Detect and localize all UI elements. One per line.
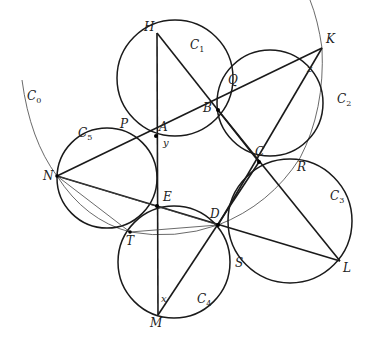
circle-c5 <box>57 128 157 228</box>
point-a <box>154 134 158 138</box>
point-e <box>155 204 159 208</box>
line-h-m <box>157 33 158 315</box>
label-c5: C5 <box>78 126 92 142</box>
label-r: R <box>296 160 306 174</box>
circle-c0-arc <box>22 0 322 235</box>
label-q: Q <box>228 73 238 87</box>
point-b <box>216 108 220 112</box>
label-h: H <box>143 20 155 34</box>
label-c2: C2 <box>337 92 351 108</box>
label-e: E <box>162 190 172 204</box>
line-b-l <box>218 110 340 261</box>
label-m: M <box>149 316 163 330</box>
label-c3: C3 <box>330 189 344 205</box>
label-p: P <box>119 117 129 131</box>
label-d: D <box>209 207 220 221</box>
label-n: N <box>42 169 54 183</box>
label-t: T <box>126 234 135 248</box>
angle-label-y: y <box>162 137 169 148</box>
point-c <box>257 160 261 164</box>
point-n <box>55 174 59 178</box>
line-m-c <box>158 162 259 315</box>
line-n-k <box>57 48 322 176</box>
label-a: A <box>158 120 168 134</box>
label-b: B <box>202 101 212 115</box>
line-t-d <box>130 225 218 232</box>
label-c0: C0 <box>27 89 41 105</box>
geometry-diagram: H A B C D E K L M N P Q R S T x y z C0 C… <box>0 0 371 343</box>
label-s: S <box>235 256 243 270</box>
angle-label-z: z <box>306 63 313 74</box>
label-k: K <box>325 32 336 46</box>
line-n-t <box>57 176 130 232</box>
label-l: L <box>342 261 351 275</box>
label-c4: C4 <box>197 292 211 308</box>
label-c: C <box>255 145 264 159</box>
angle-label-x: x <box>161 293 167 304</box>
point-d <box>216 223 220 227</box>
label-c1: C1 <box>190 38 204 54</box>
